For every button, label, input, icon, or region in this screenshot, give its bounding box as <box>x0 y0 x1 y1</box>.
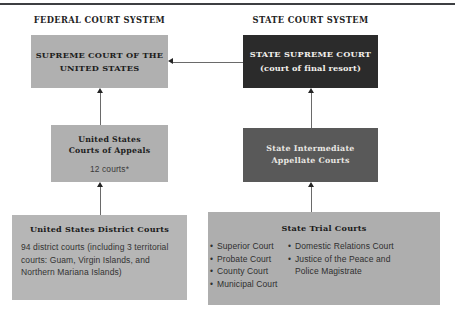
connector-appeals-to-scotus-line <box>100 93 101 125</box>
box-us-courts-of-appeals-heading-line1: United States <box>69 134 151 146</box>
arrowhead-up-icon <box>97 88 103 93</box>
box-us-supreme-court-heading: SUPREME COURT OF THE UNITED STATES <box>36 49 164 75</box>
state-column-title: STATE COURT SYSTEM <box>243 15 378 25</box>
box-us-courts-of-appeals-heading-line2: Courts of Appeals <box>69 145 151 157</box>
federal-column-title: FEDERAL COURT SYSTEM <box>31 15 168 25</box>
box-us-supreme-court: SUPREME COURT OF THE UNITED STATES <box>31 35 168 88</box>
box-state-intermediate-appellate-courts-heading-line2: Appellate Courts <box>266 155 354 168</box>
box-state-intermediate-appellate-courts: State Intermediate Appellate Courts <box>243 128 378 182</box>
bullet-icon: • <box>210 253 217 266</box>
list-item: • County Court <box>210 265 288 278</box>
bullet-icon: • <box>210 265 217 278</box>
arrowhead-up-icon <box>97 182 103 187</box>
top-divider-rule <box>0 3 455 5</box>
box-state-intermediate-appellate-courts-heading-line1: State Intermediate <box>266 143 354 156</box>
bullet-icon: • <box>210 278 217 291</box>
arrowhead-up-icon <box>308 182 314 187</box>
bullet-icon: • <box>288 240 295 253</box>
list-item: • Domestic Relations Court <box>288 240 434 253</box>
box-us-courts-of-appeals-detail: 12 courts* <box>90 164 129 174</box>
bullet-icon: • <box>288 253 295 266</box>
bullet-icon: • <box>210 240 217 253</box>
box-state-trial-courts: State Trial Courts • Superior Court • Pr… <box>208 212 440 305</box>
box-us-courts-of-appeals-heading: United States Courts of Appeals <box>69 134 151 157</box>
connector-state-supreme-to-scotus-line <box>173 62 243 63</box>
box-state-trial-courts-heading: State Trial Courts <box>208 223 440 233</box>
list-item: • Superior Court <box>210 240 288 253</box>
box-us-courts-of-appeals: United States Courts of Appeals 12 court… <box>51 125 168 182</box>
bullet-spacer: • <box>288 265 295 278</box>
connector-appellate-to-state-supreme-line <box>311 93 312 128</box>
box-state-supreme-court-heading: STATE SUPREME COURT (court of final reso… <box>250 48 371 75</box>
state-trial-courts-lists: • Superior Court • Probate Court • Count… <box>208 240 440 290</box>
box-us-supreme-court-heading-line2: UNITED STATES <box>36 62 164 75</box>
list-item: • Probate Court <box>210 253 288 266</box>
list-item: • Municipal Court <box>210 278 288 291</box>
court-system-diagram: FEDERAL COURT SYSTEM STATE COURT SYSTEM … <box>0 0 455 320</box>
arrowhead-left-icon <box>168 58 173 64</box>
connector-district-to-appeals-line <box>100 187 101 215</box>
box-us-district-courts: United States District Courts 94 distric… <box>12 215 187 300</box>
box-state-supreme-court: STATE SUPREME COURT (court of final reso… <box>243 35 378 88</box>
state-trial-courts-list-left: • Superior Court • Probate Court • Count… <box>210 240 288 290</box>
list-item-continuation: • Police Magistrate <box>288 265 434 278</box>
box-state-intermediate-appellate-courts-heading: State Intermediate Appellate Courts <box>266 143 354 168</box>
box-us-district-courts-detail: 94 district courts (including 3 territor… <box>21 241 178 279</box>
arrowhead-up-icon <box>308 88 314 93</box>
box-state-supreme-court-heading-line2: (court of final resort) <box>250 62 371 76</box>
box-us-district-courts-heading: United States District Courts <box>30 224 169 235</box>
box-us-supreme-court-heading-line1: SUPREME COURT OF THE <box>36 49 164 62</box>
list-item: • Justice of the Peace and <box>288 253 434 266</box>
state-trial-courts-list-right: • Domestic Relations Court • Justice of … <box>288 240 434 278</box>
box-state-supreme-court-heading-line1: STATE SUPREME COURT <box>250 48 371 62</box>
connector-trial-to-appellate-line <box>311 187 312 212</box>
